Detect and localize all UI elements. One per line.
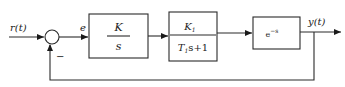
lag-denominator: T1s+1 (178, 42, 208, 54)
summing-junction (45, 30, 59, 44)
first-order-lag-block: K1 T1s+1 (169, 12, 217, 61)
output-label: y(t) (307, 16, 326, 27)
block-diagram: r(t) − e K s K1 T1s+1 e−s y(t) (0, 0, 345, 87)
input-label: r(t) (10, 22, 27, 33)
integrator-numerator: K (113, 21, 123, 34)
feedback-arrowhead (47, 44, 53, 51)
integrator-block: K s (89, 14, 148, 58)
error-label: e (80, 22, 86, 33)
integrator-denominator: s (116, 40, 122, 53)
time-delay-block: e−s (253, 17, 300, 49)
feedback-sign: − (56, 51, 64, 62)
